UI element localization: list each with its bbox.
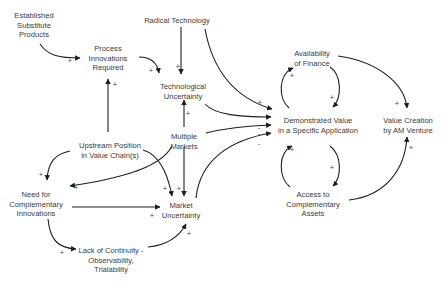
node-multiple-markets: MultipleMarkets	[170, 132, 197, 151]
positive-polarity-sign: +	[74, 184, 78, 192]
positive-polarity-sign: +	[330, 164, 334, 172]
node-label-line: Need for	[9, 190, 63, 200]
positive-polarity-sign: +	[258, 99, 262, 107]
edge-radical-to-demo	[205, 29, 272, 109]
node-established-substitute: EstablishedSubstituteProducts	[14, 11, 53, 40]
node-label-line: of Finance	[294, 59, 330, 69]
positive-polarity-sign: +	[149, 67, 153, 75]
edge-upstream-to-need	[47, 151, 70, 180]
edge-upstream-to-market	[143, 150, 172, 196]
edge-access-to-value	[349, 137, 407, 200]
node-label-line: Trialability	[79, 265, 144, 275]
node-label-line: Upstream Position	[79, 141, 141, 151]
node-market-uncertainty: MarketUncertainty	[162, 201, 200, 220]
negative-polarity-sign: -	[258, 130, 261, 138]
positive-polarity-sign: +	[150, 212, 154, 220]
node-label-line: Market	[162, 201, 200, 211]
node-label-line: Access to	[286, 190, 340, 200]
positive-polarity-sign: +	[395, 100, 399, 108]
positive-polarity-sign: +	[330, 94, 334, 102]
node-radical-technology: Radical Technology	[144, 16, 210, 26]
node-value-creation: Value Creationby AM Venture	[383, 116, 433, 135]
causal-edges	[0, 0, 443, 285]
node-label-line: Lack of Continuity -	[79, 246, 144, 256]
node-label-line: Demonstrated Value	[278, 116, 358, 126]
edge-substitute-to-process	[40, 44, 80, 58]
node-label-line: Required	[89, 63, 128, 73]
node-label-line: Availability	[294, 49, 330, 59]
node-label-line: Innovations	[89, 54, 128, 64]
node-label-line: Substitute	[14, 21, 53, 31]
negative-polarity-sign: -	[258, 140, 261, 148]
node-access-assets: Access toComplementaryAssets	[286, 190, 340, 219]
node-need-complementary: Need forComplementaryInnovations	[9, 190, 63, 219]
node-label-line: Complementary	[286, 200, 340, 210]
positive-polarity-sign: +	[68, 57, 72, 65]
node-label-line: in Value Chain(s)	[79, 151, 141, 161]
edge-need-to-lack	[48, 219, 76, 249]
positive-polarity-sign: +	[186, 110, 190, 118]
node-label-line: by AM Venture	[383, 126, 433, 136]
node-label-line: Uncertainty	[160, 92, 206, 102]
node-label-line: Established	[14, 11, 53, 21]
node-demonstrated-value: Demonstrated Valuein a Specific Applicat…	[278, 116, 358, 135]
positive-polarity-sign: +	[177, 185, 181, 193]
node-label-line: Markets	[170, 142, 197, 152]
positive-polarity-sign: +	[60, 249, 64, 257]
node-upstream-position: Upstream Positionin Value Chain(s)	[79, 141, 141, 160]
positive-polarity-sign: +	[113, 81, 117, 89]
node-label-line: Radical Technology	[144, 16, 210, 26]
node-label-line: Uncertainty	[162, 211, 200, 221]
node-label-line: Value Creation	[383, 116, 433, 126]
node-label-line: Observability,	[79, 256, 144, 266]
edge-lack-to-market	[148, 224, 186, 247]
node-availability-finance: Availabilityof Finance	[294, 49, 330, 68]
positive-polarity-sign: +	[187, 230, 191, 238]
node-label-line: Technological	[160, 82, 206, 92]
node-label-line: Assets	[286, 209, 340, 219]
node-technological-uncertainty: TechnologicalUncertainty	[160, 82, 206, 101]
node-label-line: Process	[89, 44, 128, 54]
positive-polarity-sign: +	[39, 171, 43, 179]
positive-polarity-sign: +	[409, 144, 413, 152]
edge-multiple-to-demo	[206, 125, 271, 133]
positive-polarity-sign: +	[290, 146, 294, 154]
node-label-line: Multiple	[170, 132, 197, 142]
node-label-line: Complementary	[9, 200, 63, 210]
node-process-innovations: ProcessInnovationsRequired	[89, 44, 128, 73]
positive-polarity-sign: +	[163, 185, 167, 193]
positive-polarity-sign: +	[176, 63, 180, 71]
positive-polarity-sign: +	[290, 72, 294, 80]
node-lack-continuity: Lack of Continuity -Observability,Triala…	[79, 246, 144, 275]
node-label-line: in a Specific Application	[278, 126, 358, 136]
node-label-line: Products	[14, 30, 53, 40]
node-label-line: Innovations	[9, 209, 63, 219]
